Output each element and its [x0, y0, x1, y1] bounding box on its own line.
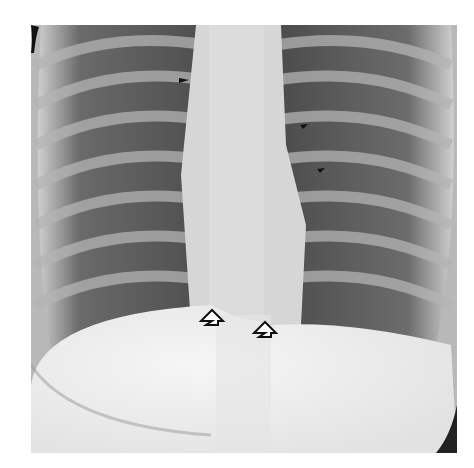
xray-rendering — [31, 25, 457, 453]
chest-xray-image — [31, 25, 457, 453]
spine — [209, 25, 264, 325]
